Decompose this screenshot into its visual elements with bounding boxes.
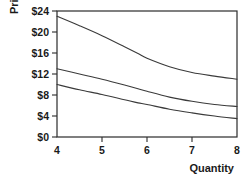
y-tick-label: $24 <box>31 5 49 17</box>
x-tick-label: 8 <box>234 144 240 156</box>
plot-area-frame <box>57 11 237 137</box>
price-quantity-chart: $0$4$8$12$16$20$24 45678 Price Quantity <box>0 0 252 179</box>
x-tick-label: 4 <box>54 144 60 156</box>
x-axis-title: Quantity <box>189 162 234 174</box>
y-tick-label: $20 <box>31 26 49 38</box>
x-tick-label: 6 <box>144 144 150 156</box>
y-tick-label: $4 <box>37 110 49 122</box>
x-tick-label: 7 <box>189 144 195 156</box>
y-tick-label: $0 <box>37 131 49 143</box>
y-tick-label: $12 <box>31 68 49 80</box>
y-tick-label: $16 <box>31 47 49 59</box>
x-tick-label: 5 <box>99 144 105 156</box>
y-axis-title: Price <box>8 0 20 14</box>
y-tick-label: $8 <box>37 89 49 101</box>
chart-canvas: $0$4$8$12$16$20$24 45678 Price Quantity <box>0 0 252 179</box>
